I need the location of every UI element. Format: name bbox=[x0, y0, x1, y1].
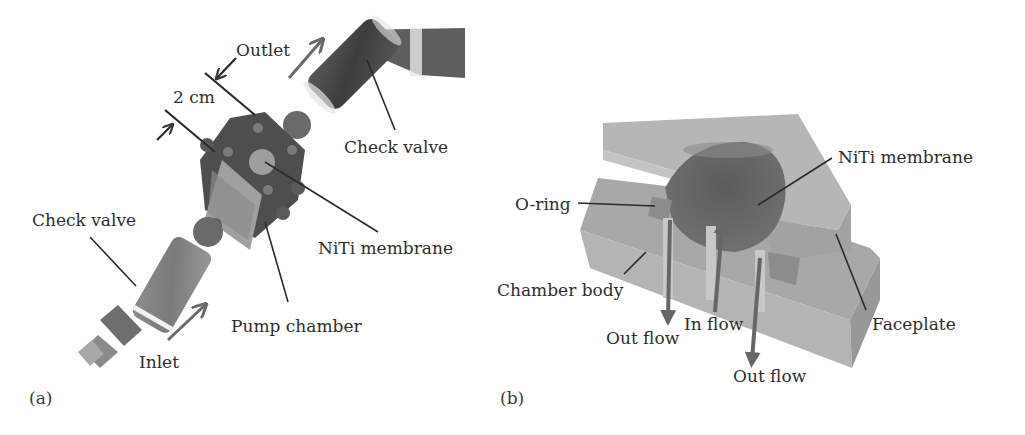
label-in-flow: In flow bbox=[684, 316, 743, 333]
label-check-valve-bottom: Check valve bbox=[32, 212, 136, 229]
label-check-valve-top: Check valve bbox=[344, 139, 448, 156]
label-niti-membrane-a: NiTi membrane bbox=[318, 240, 453, 257]
panel-tag-b: (b) bbox=[500, 388, 524, 408]
label-pump-chamber: Pump chamber bbox=[231, 318, 362, 335]
lower-check-valve bbox=[130, 234, 214, 336]
label-niti-membrane-b: NiTi membrane bbox=[838, 149, 973, 166]
out-flow-arrow-left bbox=[668, 220, 670, 318]
leader-check-valve-top bbox=[367, 60, 395, 130]
upper-check-valve bbox=[300, 11, 407, 118]
dimension-arrow-bottom bbox=[157, 125, 172, 140]
label-dimension-2cm: 2 cm bbox=[173, 89, 215, 106]
dimension-arrow-top bbox=[217, 58, 236, 78]
label-out-flow-right: Out flow bbox=[733, 368, 806, 385]
leader-pump-chamber bbox=[265, 222, 288, 302]
label-outlet: Outlet bbox=[236, 42, 290, 59]
label-o-ring: O-ring bbox=[515, 196, 571, 213]
leader-check-valve-bottom bbox=[90, 237, 136, 286]
panel-a-photo bbox=[78, 11, 465, 368]
dimension-line-inner bbox=[165, 110, 215, 152]
label-out-flow-left: Out flow bbox=[606, 330, 679, 347]
label-chamber-body: Chamber body bbox=[497, 282, 623, 299]
label-faceplate: Faceplate bbox=[872, 316, 956, 333]
panel-tag-a: (a) bbox=[29, 388, 52, 408]
lower-nut bbox=[193, 217, 223, 247]
label-inlet: Inlet bbox=[139, 354, 179, 371]
niti-membrane-disc bbox=[249, 149, 275, 175]
